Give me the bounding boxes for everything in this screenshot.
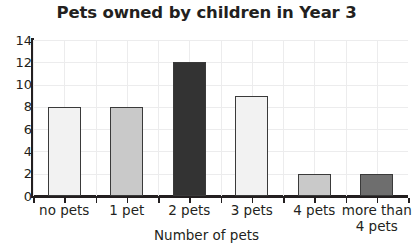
bar xyxy=(48,107,81,196)
y-axis-tick-label: 12 xyxy=(6,56,32,69)
y-axis-tick-label: 6 xyxy=(6,123,32,136)
y-axis-tick-label: 8 xyxy=(6,100,32,113)
gridline-vertical xyxy=(346,40,347,196)
bar xyxy=(298,174,331,196)
bar xyxy=(235,96,268,196)
bar xyxy=(110,107,143,196)
gridline-vertical xyxy=(377,40,378,196)
x-axis-title: Number of pets xyxy=(0,227,413,243)
y-axis-tick-label: 14 xyxy=(6,34,32,47)
y-axis-tick-label: 2 xyxy=(6,167,32,180)
gridline-vertical xyxy=(221,40,222,196)
plot-area xyxy=(33,40,408,196)
gridline-vertical xyxy=(283,40,284,196)
gridline-vertical xyxy=(158,40,159,196)
y-axis-tick-label: 4 xyxy=(6,145,32,158)
y-axis-tick-label: 10 xyxy=(6,78,32,91)
gridline-vertical xyxy=(314,40,315,196)
bar xyxy=(173,62,206,196)
y-axis-tick-label: 0 xyxy=(6,190,32,203)
bar-chart: Pets owned by children in Year 3 0246810… xyxy=(0,0,413,246)
gridline-vertical xyxy=(96,40,97,196)
bar xyxy=(360,174,393,196)
chart-title: Pets owned by children in Year 3 xyxy=(0,3,413,22)
gridlines xyxy=(33,40,408,196)
gridline-vertical xyxy=(33,40,34,196)
